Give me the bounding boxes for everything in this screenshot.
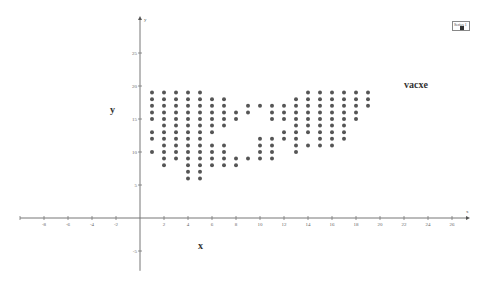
data-point (162, 130, 166, 134)
x-tick-label: 20 (378, 222, 384, 227)
data-point (306, 104, 310, 108)
data-point (162, 97, 166, 101)
data-point (342, 117, 346, 121)
x-tick-label: 26 (450, 222, 456, 227)
data-point (366, 104, 370, 108)
data-point (306, 117, 310, 121)
data-point (330, 143, 334, 147)
data-point (174, 97, 178, 101)
data-point (366, 91, 370, 95)
data-point (186, 130, 190, 134)
data-point (318, 117, 322, 121)
data-point (198, 157, 202, 161)
data-point (210, 124, 214, 128)
data-point (186, 117, 190, 121)
data-point (318, 124, 322, 128)
data-point (174, 117, 178, 121)
data-point (162, 143, 166, 147)
data-point (282, 117, 286, 121)
data-point (186, 150, 190, 154)
y-arrow-label: y (144, 17, 147, 22)
data-point (330, 97, 334, 101)
data-point (318, 137, 322, 141)
data-point (210, 117, 214, 121)
data-point (354, 104, 358, 108)
data-point (186, 163, 190, 167)
data-point (258, 157, 262, 161)
y-axis-arrow-icon (138, 16, 142, 20)
x-tick-label: 16 (330, 222, 336, 227)
data-point (150, 130, 154, 134)
x-tick-label: 14 (306, 222, 312, 227)
data-point (282, 104, 286, 108)
data-point (198, 110, 202, 114)
data-point (246, 104, 250, 108)
y-tick-label: 10 (132, 150, 138, 155)
y-tick-label: 25 (132, 51, 138, 56)
data-point (342, 110, 346, 114)
data-point (294, 117, 298, 121)
data-point (342, 130, 346, 134)
data-point (330, 117, 334, 121)
data-point (330, 130, 334, 134)
data-point (174, 137, 178, 141)
data-point (270, 104, 274, 108)
x-tick-label: -8 (42, 222, 47, 227)
data-point (330, 104, 334, 108)
data-point (246, 110, 250, 114)
data-point (318, 130, 322, 134)
x-tick-label: 18 (354, 222, 360, 227)
data-point (306, 143, 310, 147)
data-point (354, 110, 358, 114)
data-point (162, 157, 166, 161)
data-point (222, 150, 226, 154)
x-tick-label: 24 (426, 222, 432, 227)
data-point (150, 150, 154, 154)
data-point (174, 157, 178, 161)
data-point (342, 97, 346, 101)
data-point (162, 137, 166, 141)
data-point (330, 137, 334, 141)
data-point (342, 124, 346, 128)
data-point (210, 163, 214, 167)
data-point (282, 137, 286, 141)
data-point (306, 110, 310, 114)
data-point (318, 143, 322, 147)
data-point (150, 104, 154, 108)
y-tick-label: 15 (132, 117, 138, 122)
data-point (186, 176, 190, 180)
data-point (294, 104, 298, 108)
data-point (198, 97, 202, 101)
data-point (222, 157, 226, 161)
data-point (198, 163, 202, 167)
data-point (222, 110, 226, 114)
data-point (198, 124, 202, 128)
annotation-text: vacxe (404, 79, 428, 90)
data-point (210, 143, 214, 147)
data-point (342, 104, 346, 108)
x-tick-label: 6 (211, 222, 214, 227)
data-point (210, 150, 214, 154)
x-tick-label: 2 (163, 222, 166, 227)
axes: x-8-6-4-22468101214161820222426y-5510152… (20, 16, 470, 271)
data-point (162, 163, 166, 167)
data-point (186, 104, 190, 108)
data-point (186, 157, 190, 161)
data-point (186, 170, 190, 174)
data-point (282, 110, 286, 114)
data-point (306, 124, 310, 128)
data-point (258, 143, 262, 147)
data-point (198, 143, 202, 147)
data-point (282, 130, 286, 134)
data-point (222, 117, 226, 121)
x-arrow-label: x (466, 209, 469, 214)
data-point (174, 124, 178, 128)
data-point (186, 91, 190, 95)
data-point (198, 150, 202, 154)
data-point (210, 110, 214, 114)
data-point (210, 157, 214, 161)
data-point (150, 97, 154, 101)
legend-marker-icon (460, 26, 464, 30)
data-point (258, 137, 262, 141)
data-point (222, 124, 226, 128)
